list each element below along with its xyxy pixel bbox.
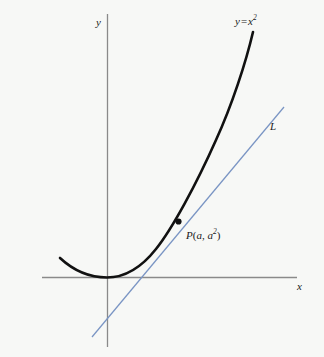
tangent-line-figure: y x y=x2 L P(a, a2) bbox=[0, 0, 324, 357]
x-axis-label: x bbox=[297, 281, 302, 292]
parabola-curve bbox=[60, 32, 253, 278]
figure-canvas bbox=[0, 0, 324, 357]
point-label-name: P bbox=[186, 229, 193, 241]
y-axis-label: y bbox=[96, 17, 101, 28]
tangent-line-label: L bbox=[270, 121, 276, 132]
tangency-point-dot bbox=[175, 218, 181, 224]
tangent-line bbox=[92, 107, 284, 337]
tangency-point-label: P(a, a2) bbox=[186, 228, 220, 241]
curve-equation-label: y=x2 bbox=[235, 14, 257, 27]
curve-equation-exponent: 2 bbox=[253, 13, 257, 22]
point-label-close-paren: ) bbox=[217, 229, 221, 241]
curve-equation-equals: = bbox=[240, 15, 248, 27]
